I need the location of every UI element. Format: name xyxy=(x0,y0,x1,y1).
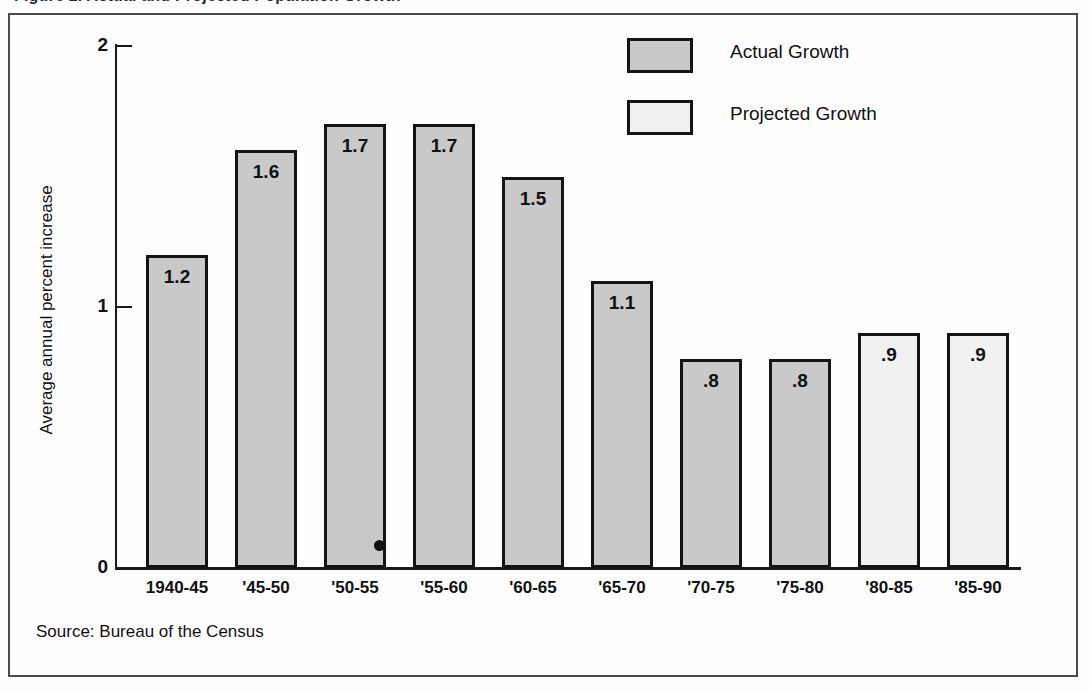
x-axis-label-1940-45: 1940-45 xyxy=(132,578,222,598)
x-axis-label-50-55: '50-55 xyxy=(310,578,400,598)
bar-value-label: 1.1 xyxy=(594,292,650,314)
y-tick-label-1: 1 xyxy=(82,295,108,317)
x-axis-label-60-65: '60-65 xyxy=(488,578,578,598)
bar-value-label: 1.7 xyxy=(327,135,383,157)
source-note: Source: Bureau of the Census xyxy=(36,622,264,642)
bar-55-60: 1.7 xyxy=(413,124,475,568)
y-tick-label-2: 2 xyxy=(82,34,108,56)
y-tick-mark-1 xyxy=(117,306,132,308)
bar-value-label: 1.2 xyxy=(149,266,205,288)
bar-80-85: .9 xyxy=(858,333,920,568)
bar-value-label: .8 xyxy=(683,370,739,392)
legend-swatch-actual-growth xyxy=(627,38,693,73)
x-axis-label-55-60: '55-60 xyxy=(399,578,489,598)
legend-swatch-projected-growth xyxy=(627,100,693,135)
y-tick-mark-2 xyxy=(117,45,132,47)
x-axis-label-65-70: '65-70 xyxy=(577,578,667,598)
x-axis-label-70-75: '70-75 xyxy=(666,578,756,598)
bar-60-65: 1.5 xyxy=(502,177,564,569)
bar-value-label: .8 xyxy=(772,370,828,392)
x-axis-label-80-85: '80-85 xyxy=(844,578,934,598)
bar-1940-45: 1.2 xyxy=(146,255,208,568)
y-axis-title: Average annual percent increase xyxy=(37,155,57,465)
x-axis-label-75-80: '75-80 xyxy=(755,578,845,598)
x-axis-label-45-50: '45-50 xyxy=(221,578,311,598)
bar-50-55: 1.7 xyxy=(324,124,386,568)
figure-title-text: Figure 2. Actual and Projected Populatio… xyxy=(14,0,401,5)
bar-value-label: 1.6 xyxy=(238,161,294,183)
bar-value-label: 1.5 xyxy=(505,188,561,210)
bar-45-50: 1.6 xyxy=(235,150,297,568)
legend-label-actual-growth: Actual Growth xyxy=(730,41,849,63)
bar-85-90: .9 xyxy=(947,333,1009,568)
y-tick-label-0: 0 xyxy=(82,556,108,578)
bar-75-80: .8 xyxy=(769,359,831,568)
bar-65-70: 1.1 xyxy=(591,281,653,568)
bar-value-label: 1.7 xyxy=(416,135,472,157)
bar-value-label: .9 xyxy=(861,344,917,366)
figure-title-clipped: Figure 2. Actual and Projected Populatio… xyxy=(0,0,1089,12)
x-axis-label-85-90: '85-90 xyxy=(933,578,1023,598)
chart-screenshot: Figure 2. Actual and Projected Populatio… xyxy=(0,0,1089,690)
bar-70-75: .8 xyxy=(680,359,742,568)
legend-label-projected-growth: Projected Growth xyxy=(730,103,877,125)
bar-value-label: .9 xyxy=(950,344,1006,366)
ink-speck-artifact xyxy=(374,540,385,551)
